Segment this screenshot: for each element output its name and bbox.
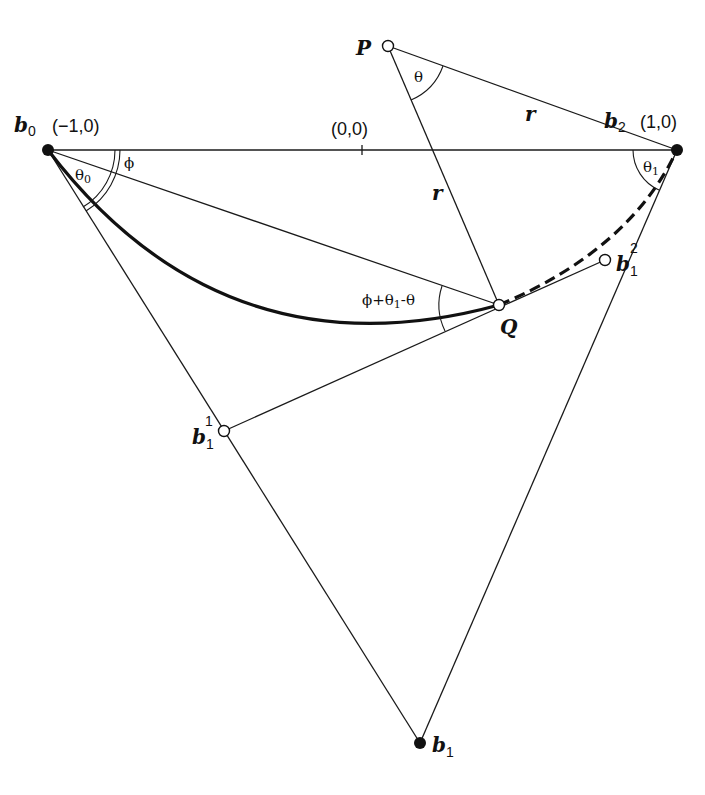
line-b0-b1: [48, 150, 420, 743]
label-q: Q: [500, 315, 518, 339]
label-r-upper: r: [525, 102, 537, 126]
point-b2: [671, 144, 683, 156]
label-b0: b0: [14, 113, 36, 139]
bezier-construction-diagram: b0 (−1,0) (0,0) b2 (1,0) P Q b1 1 b1 2 b…: [0, 0, 705, 795]
point-b1: [414, 737, 426, 749]
label-b0-coord: (−1,0): [52, 116, 100, 136]
point-b1-2: [600, 255, 611, 266]
label-r-lower: r: [432, 181, 444, 205]
point-b0: [42, 144, 54, 156]
label-combo-angle: ϕ+θ1-θ: [362, 291, 415, 311]
line-b11-b12: [224, 260, 605, 431]
point-p: [383, 41, 394, 52]
label-b1-1-sup: 1: [205, 413, 213, 429]
label-origin-coord: (0,0): [331, 119, 368, 139]
label-b1-2: b1: [616, 252, 638, 279]
label-b1-2-sup: 2: [630, 240, 638, 256]
label-b1: b1: [432, 733, 454, 760]
line-p-b2: [388, 46, 677, 150]
label-b2-coord: (1,0): [640, 112, 677, 132]
point-b1-1: [219, 426, 230, 437]
label-theta0: θ0: [75, 166, 91, 186]
label-phi: ϕ: [124, 154, 134, 172]
label-p: P: [355, 36, 372, 60]
line-p-q: [388, 46, 499, 305]
point-q: [494, 300, 505, 311]
labels: b0 (−1,0) (0,0) b2 (1,0) P Q b1 1 b1 2 b…: [14, 36, 677, 760]
line-b2-b1: [420, 150, 677, 743]
label-b2: b2: [604, 109, 626, 135]
label-theta1: θ1: [643, 158, 659, 178]
construction-lines: [48, 46, 677, 743]
arc-combo: [439, 286, 445, 331]
label-b1-1: b1: [192, 425, 214, 452]
label-theta: θ: [414, 68, 423, 86]
